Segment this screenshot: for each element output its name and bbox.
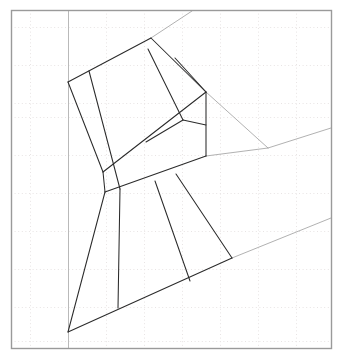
figure-canvas xyxy=(0,0,342,362)
technical-line-drawing xyxy=(0,0,342,362)
